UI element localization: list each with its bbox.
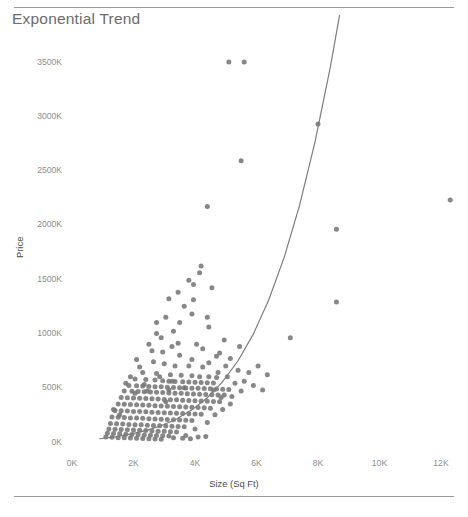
data-point[interactable] [113,427,118,432]
data-point[interactable] [200,346,205,351]
data-point[interactable] [211,381,216,386]
data-point[interactable] [176,290,181,295]
data-point[interactable] [214,375,219,380]
data-point[interactable] [168,410,173,415]
data-point[interactable] [205,204,210,209]
data-point[interactable] [202,405,207,410]
data-point[interactable] [133,377,138,382]
data-point[interactable] [154,331,159,336]
data-point[interactable] [134,436,139,441]
data-point[interactable] [106,426,111,431]
data-point[interactable] [123,381,128,386]
data-point[interactable] [169,424,174,429]
data-point[interactable] [137,409,142,414]
data-point[interactable] [176,341,181,346]
data-point[interactable] [448,197,453,202]
data-point[interactable] [134,357,139,362]
data-point[interactable] [199,380,204,385]
data-point[interactable] [212,412,217,417]
data-point[interactable] [177,320,182,325]
data-point[interactable] [119,427,124,432]
data-point[interactable] [159,384,164,389]
data-point[interactable] [200,365,205,370]
data-point[interactable] [194,342,199,347]
data-point[interactable] [145,388,150,393]
data-point[interactable] [143,396,148,401]
data-point[interactable] [183,405,188,410]
data-point[interactable] [199,412,204,417]
data-point[interactable] [205,315,210,320]
data-point[interactable] [140,370,145,375]
data-point[interactable] [162,429,167,434]
data-point[interactable] [174,397,179,402]
data-point[interactable] [216,370,221,375]
data-point[interactable] [111,407,116,412]
data-point[interactable] [131,409,136,414]
data-point[interactable] [222,337,227,342]
data-point[interactable] [208,406,213,411]
data-point[interactable] [189,386,194,391]
data-point[interactable] [205,380,210,385]
data-point[interactable] [142,382,147,387]
data-point[interactable] [239,158,244,163]
data-point[interactable] [226,387,231,392]
data-point[interactable] [199,264,204,269]
data-point[interactable] [239,388,244,393]
data-point[interactable] [154,320,159,325]
data-point[interactable] [128,436,133,441]
data-point[interactable] [182,424,187,429]
data-point[interactable] [165,417,170,422]
data-point[interactable] [174,411,179,416]
data-point[interactable] [146,384,151,389]
data-point[interactable] [189,418,194,423]
data-point[interactable] [156,429,161,434]
data-point[interactable] [191,282,196,287]
data-point[interactable] [146,436,151,441]
data-point[interactable] [182,385,187,390]
data-point[interactable] [197,270,202,275]
data-point[interactable] [126,422,131,427]
data-point[interactable] [183,433,188,438]
data-point[interactable] [166,387,171,392]
data-point[interactable] [256,364,261,369]
data-point[interactable] [196,386,201,391]
data-point[interactable] [122,415,127,420]
data-point[interactable] [176,424,181,429]
data-point[interactable] [229,394,234,399]
data-point[interactable] [168,372,173,377]
data-point[interactable] [137,365,142,370]
data-point[interactable] [122,402,127,407]
data-point[interactable] [193,411,198,416]
data-point[interactable] [134,402,139,407]
data-point[interactable] [171,385,176,390]
data-point[interactable] [149,410,154,415]
data-point[interactable] [226,60,231,65]
data-point[interactable] [166,434,171,439]
data-point[interactable] [171,404,176,409]
data-point[interactable] [180,379,185,384]
data-point[interactable] [159,403,164,408]
data-point[interactable] [146,416,151,421]
data-point[interactable] [177,385,182,390]
data-point[interactable] [246,370,251,375]
data-point[interactable] [203,434,208,439]
data-point[interactable] [169,379,174,384]
data-point[interactable] [128,374,133,379]
data-point[interactable] [153,436,158,441]
data-point[interactable] [251,383,256,388]
data-point[interactable] [140,436,145,441]
data-point[interactable] [117,412,122,417]
data-point[interactable] [217,399,222,404]
data-point[interactable] [145,423,150,428]
data-point[interactable] [153,384,158,389]
data-point[interactable] [202,386,207,391]
data-point[interactable] [156,397,161,402]
data-point[interactable] [133,391,138,396]
data-point[interactable] [139,422,144,427]
data-point[interactable] [146,342,151,347]
data-point[interactable] [143,409,148,414]
data-point[interactable] [203,392,208,397]
data-point[interactable] [334,227,339,232]
data-point[interactable] [189,373,194,378]
data-point[interactable] [119,395,124,400]
